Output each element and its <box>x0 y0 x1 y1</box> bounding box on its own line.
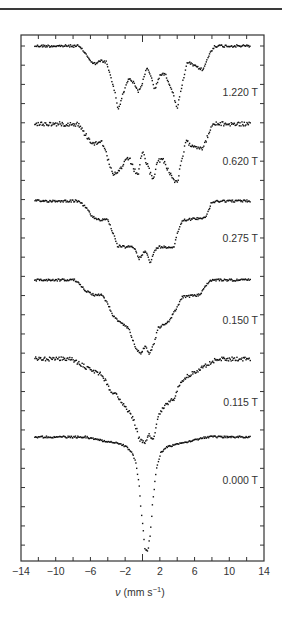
data-point <box>71 436 72 437</box>
data-point <box>147 163 148 164</box>
data-point <box>133 340 134 341</box>
data-point <box>109 389 110 390</box>
data-point <box>134 459 135 460</box>
data-point <box>143 539 144 540</box>
data-point <box>129 78 130 79</box>
data-point <box>68 359 69 360</box>
data-point <box>39 124 40 125</box>
data-point <box>200 69 201 70</box>
data-point <box>205 217 206 218</box>
data-point <box>138 479 139 480</box>
data-point <box>66 437 67 438</box>
data-point <box>86 207 87 208</box>
data-point <box>91 215 92 216</box>
data-point <box>117 107 118 108</box>
data-point <box>157 416 158 417</box>
data-point <box>41 45 42 46</box>
data-point <box>52 359 53 360</box>
data-point <box>209 208 210 209</box>
data-point <box>103 146 104 147</box>
data-point <box>206 215 207 216</box>
data-point <box>208 437 209 438</box>
series-labels: 1.220 T0.620 T0.275 T0.150 T0.115 T0.000… <box>223 86 259 486</box>
data-point <box>248 357 249 358</box>
data-point <box>94 144 95 145</box>
data-point <box>224 200 225 201</box>
data-point <box>70 199 71 200</box>
data-point <box>43 125 44 126</box>
data-point <box>42 435 43 436</box>
data-point <box>115 97 116 98</box>
x-axis-label: ν (mm s−1) <box>115 585 164 598</box>
data-point <box>67 357 68 358</box>
data-point <box>245 124 246 125</box>
data-point <box>85 437 86 438</box>
data-point <box>226 279 227 280</box>
data-point <box>35 356 36 357</box>
data-point <box>245 359 246 360</box>
data-point <box>72 45 73 46</box>
data-point <box>179 301 180 302</box>
data-point <box>208 133 209 134</box>
data-point <box>188 144 189 145</box>
data-point <box>181 222 182 223</box>
data-point <box>135 251 136 252</box>
data-point <box>45 437 46 438</box>
data-point <box>121 246 122 247</box>
data-point <box>84 205 85 206</box>
data-point <box>138 173 139 174</box>
data-point <box>105 380 106 381</box>
data-point <box>234 123 235 124</box>
spectra-points <box>34 44 251 552</box>
data-point <box>216 121 217 122</box>
data-point <box>60 123 61 124</box>
data-point <box>144 74 145 75</box>
data-point <box>47 280 48 281</box>
data-point <box>91 294 92 295</box>
data-point <box>45 122 46 123</box>
data-point <box>179 168 180 169</box>
data-point <box>231 279 232 280</box>
data-point <box>108 385 109 386</box>
data-point <box>197 371 198 372</box>
data-point <box>152 256 153 257</box>
data-point <box>174 398 175 399</box>
data-point <box>204 438 205 439</box>
data-point <box>203 288 204 289</box>
data-point <box>123 444 124 445</box>
data-point <box>89 367 90 368</box>
data-point <box>97 62 98 63</box>
data-point <box>62 123 63 124</box>
data-point <box>60 201 61 202</box>
data-point <box>101 140 102 141</box>
data-point <box>42 124 43 125</box>
data-point <box>235 280 236 281</box>
data-point <box>178 175 179 176</box>
data-point <box>175 102 176 103</box>
data-point <box>192 371 193 372</box>
data-point <box>77 362 78 363</box>
data-point <box>239 125 240 126</box>
spectrum-series <box>34 435 251 551</box>
data-point <box>153 176 154 177</box>
data-point <box>129 449 130 450</box>
data-point <box>94 62 95 63</box>
series-label: 1.220 T <box>223 86 259 98</box>
data-point <box>241 357 242 358</box>
data-point <box>44 45 45 46</box>
data-point <box>98 293 99 294</box>
data-point <box>173 311 174 312</box>
data-point <box>206 61 207 62</box>
data-point <box>119 106 120 107</box>
data-point <box>76 123 77 124</box>
data-point <box>249 436 250 437</box>
data-point <box>36 123 37 124</box>
data-point <box>173 246 174 247</box>
data-point <box>101 439 102 440</box>
data-point <box>122 93 123 94</box>
data-point <box>141 155 142 156</box>
data-point <box>104 62 105 63</box>
data-point <box>153 496 154 497</box>
data-point <box>147 550 148 551</box>
data-point <box>131 80 132 81</box>
